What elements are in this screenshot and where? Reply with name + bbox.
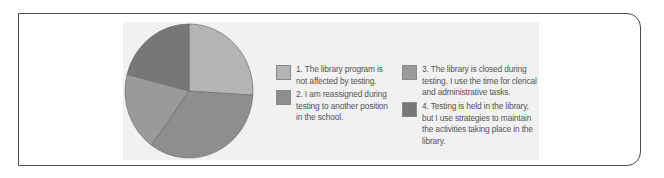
pie-slice-1	[189, 24, 253, 95]
legend-swatch-2	[276, 90, 291, 105]
legend-swatch-1	[276, 65, 291, 80]
legend-label-4: 4. Testing is held in the library, but I…	[422, 101, 538, 147]
pie-slices	[125, 24, 253, 158]
legend-label-1: 1. The library program is not affected b…	[296, 64, 394, 87]
legend-item-2: 2. I am reassigned during testing to ano…	[276, 89, 394, 124]
legend-item-3: 3. The library is closed during testing.…	[402, 64, 538, 99]
legend-item-1: 1. The library program is not affected b…	[276, 64, 394, 87]
legend-swatch-3	[402, 65, 417, 80]
legend-label-2: 2. I am reassigned during testing to ano…	[296, 89, 394, 124]
pie-chart	[124, 23, 254, 159]
legend-item-4: 4. Testing is held in the library, but I…	[402, 101, 538, 147]
legend-label-3: 3. The library is closed during testing.…	[422, 64, 538, 99]
legend-swatch-4	[402, 102, 417, 117]
